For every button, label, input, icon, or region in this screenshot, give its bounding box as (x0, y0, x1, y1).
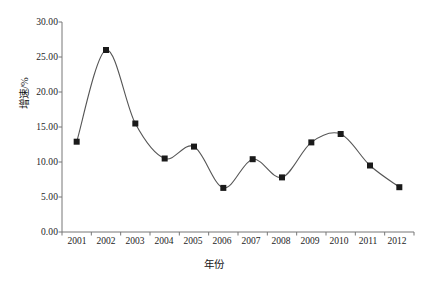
data-point-2008 (279, 174, 285, 180)
data-point-2006 (220, 185, 226, 191)
data-point-2010 (338, 131, 344, 137)
data-point-2002 (103, 47, 109, 53)
data-point-2003 (132, 121, 138, 127)
axis-lines (62, 22, 414, 232)
data-point-2012 (396, 184, 402, 190)
x-axis-ticks (62, 232, 414, 236)
data-point-2001 (74, 139, 80, 145)
plot-area (0, 0, 428, 281)
data-point-2011 (367, 163, 373, 169)
y-axis-ticks (59, 22, 63, 232)
line-chart: 30.00 25.00 20.00 15.00 10.00 5.00 0.00 … (0, 0, 428, 281)
data-point-2005 (191, 144, 197, 150)
data-point-markers (74, 47, 403, 191)
data-point-2007 (250, 156, 256, 162)
data-point-2004 (162, 156, 168, 162)
series-line (77, 50, 400, 188)
data-point-2009 (308, 139, 314, 145)
